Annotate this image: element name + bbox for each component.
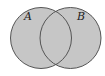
set-b-label: B	[76, 10, 85, 23]
venn-diagram: A B	[0, 0, 105, 76]
set-a-label: A	[23, 10, 32, 23]
